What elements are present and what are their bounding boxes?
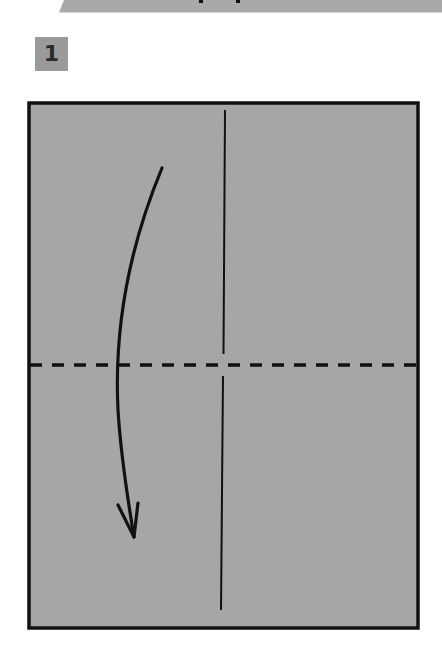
paper-sheet xyxy=(29,103,418,628)
origami-fold-diagram xyxy=(0,0,442,670)
